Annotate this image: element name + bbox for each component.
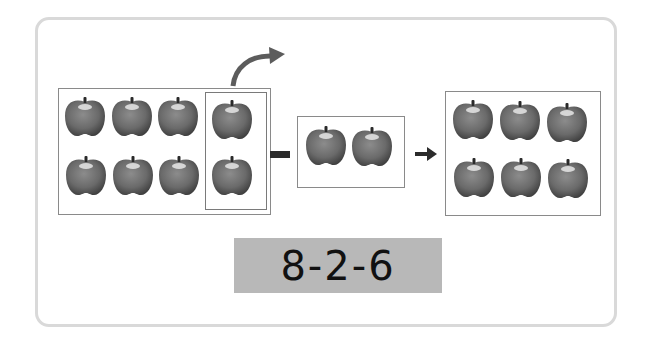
minus-sign-icon bbox=[270, 151, 290, 158]
apple-icon bbox=[111, 155, 155, 197]
apple-icon bbox=[210, 99, 254, 141]
equation-label: 8-2-6 bbox=[234, 238, 442, 293]
apple-icon bbox=[63, 96, 107, 138]
apple-icon bbox=[156, 96, 200, 138]
apple-icon bbox=[157, 155, 201, 197]
right-arrow-icon bbox=[415, 147, 437, 161]
curved-arrow-icon bbox=[225, 42, 290, 87]
apple-icon bbox=[64, 155, 108, 197]
apple-icon bbox=[499, 157, 543, 199]
apple-icon bbox=[498, 100, 542, 142]
apple-icon bbox=[304, 125, 348, 167]
apple-icon bbox=[350, 126, 394, 168]
apple-icon bbox=[110, 96, 154, 138]
apple-icon bbox=[451, 99, 495, 141]
apple-icon bbox=[546, 158, 590, 200]
apple-icon bbox=[545, 102, 589, 144]
apple-icon bbox=[452, 157, 496, 199]
apple-icon bbox=[210, 155, 254, 197]
